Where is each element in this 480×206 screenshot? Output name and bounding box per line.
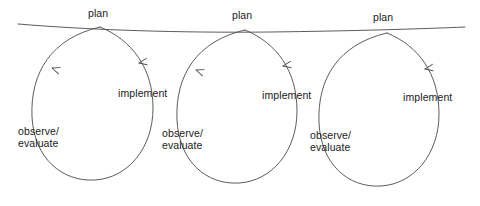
cycle-3-observe-line1: observe/ [310, 129, 351, 141]
cycle-1-observe-line2: evaluate [18, 137, 59, 149]
cycle-1-plan-label: plan [88, 8, 108, 20]
cycle-2-arrow-up-icon [195, 66, 205, 76]
cycle-1-observe-evaluate-label: observe/evaluate [18, 126, 59, 149]
cycle-3-observe-line2: evaluate [310, 141, 351, 153]
cycle-1-loop [32, 27, 153, 180]
cycle-2-observe-line1: observe/ [162, 127, 203, 139]
cycle-3-loop [319, 33, 439, 186]
cycle-2-observe-line2: evaluate [162, 139, 203, 151]
cycle-2-group [177, 30, 297, 183]
cycle-3-plan-label: plan [373, 12, 393, 24]
cycle-2-implement-label: implement [262, 90, 311, 102]
cycle-1-arrow-up-icon [51, 64, 61, 74]
cycle-3-implement-label: implement [403, 92, 452, 104]
cycle-2-plan-label: plan [232, 10, 252, 22]
cycle-1-observe-line1: observe/ [18, 125, 59, 137]
cycle-1-group [32, 27, 153, 180]
cycle-2-loop [177, 30, 297, 183]
cycle-3-observe-evaluate-label: observe/evaluate [310, 130, 351, 153]
cycle-3-group [319, 33, 439, 186]
cycle-2-observe-evaluate-label: observe/evaluate [162, 128, 203, 151]
cycle-diagram: plan implement observe/evaluate plan imp… [0, 0, 480, 206]
cycle-1-implement-label: implement [118, 88, 167, 100]
